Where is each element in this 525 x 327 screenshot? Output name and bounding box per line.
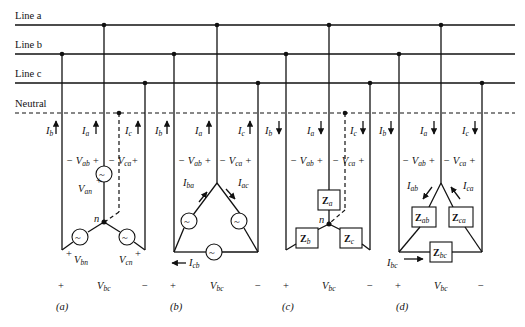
svg-text:Ic: Ic bbox=[461, 125, 470, 138]
voltage-label-vab: − Vab + bbox=[66, 155, 99, 168]
svg-text:Ia: Ia bbox=[306, 125, 315, 138]
panel-b-delta-source: ~ ~ ~ Ib Ia Ic − Vab + − Vca + Iba Iac I… bbox=[154, 23, 261, 313]
line-b-label: Line b bbox=[15, 39, 42, 50]
sine-icon: ~ bbox=[209, 247, 215, 258]
svg-text:n: n bbox=[319, 214, 324, 225]
svg-text:− Vca +: − Vca + bbox=[219, 155, 252, 168]
svg-text:− Vab +: − Vab + bbox=[178, 155, 211, 168]
panel-d-delta-load: Zab Zca Zbc Ib Ia Ic − Vab + − Vca + Iab… bbox=[378, 23, 484, 313]
svg-text:−: − bbox=[367, 280, 373, 291]
three-phase-circuit-diagram: Line a Line b Line c Neutral ~ ~ ~ bbox=[0, 0, 525, 327]
arrow-diagonal-icon bbox=[423, 187, 432, 199]
caption-c: (c) bbox=[282, 301, 294, 313]
plus-sign: + bbox=[135, 248, 141, 259]
voltage-label-van: Van bbox=[78, 183, 92, 196]
current-label-ib: Ib bbox=[45, 125, 54, 138]
line-c-label: Line c bbox=[15, 68, 42, 79]
plus-sign: + bbox=[96, 175, 102, 186]
svg-text:−: − bbox=[255, 280, 261, 291]
svg-text:Ib: Ib bbox=[154, 125, 163, 138]
current-label-ibc: Ibc bbox=[386, 257, 398, 270]
svg-text:− Vab +: − Vab + bbox=[290, 155, 323, 168]
current-label-ica: Ica bbox=[462, 180, 474, 193]
current-label-ic: Ic bbox=[124, 125, 133, 138]
svg-text:− Vca +: − Vca + bbox=[443, 155, 476, 168]
voltage-label-vbc: Vbc bbox=[97, 280, 111, 293]
current-label-iba: Iba bbox=[182, 177, 194, 190]
voltage-label-vbn: Vbn bbox=[74, 254, 88, 267]
plus-sign: + bbox=[66, 248, 72, 259]
current-label-ia: Ia bbox=[81, 125, 90, 138]
panel-c-y-load: Za n Zb Zc Ib Ia Ic − Vab + − Vca + + Vb… bbox=[264, 23, 373, 313]
current-label-iab: Iab bbox=[406, 180, 418, 193]
svg-text:Ic: Ic bbox=[237, 125, 246, 138]
sine-icon: ~ bbox=[184, 216, 190, 227]
voltage-label-vcn: Vcn bbox=[119, 254, 133, 267]
caption-b: (b) bbox=[170, 301, 183, 313]
sine-icon: ~ bbox=[122, 232, 128, 243]
svg-text:Ib: Ib bbox=[264, 125, 273, 138]
neutral-label: Neutral bbox=[15, 98, 47, 109]
panel-a-y-source: ~ ~ ~ Ib Ia Ic − Vab + − Vca+ Van + n + … bbox=[45, 23, 148, 313]
svg-text:Vbc: Vbc bbox=[210, 280, 224, 293]
svg-text:+: + bbox=[283, 280, 289, 291]
svg-text:Ic: Ic bbox=[349, 125, 358, 138]
current-label-icb: Icb bbox=[188, 257, 200, 270]
svg-text:Vbc: Vbc bbox=[322, 280, 336, 293]
svg-text:−: − bbox=[142, 280, 148, 291]
svg-text:Vbc: Vbc bbox=[434, 280, 448, 293]
caption-d: (d) bbox=[396, 301, 409, 313]
current-label-iac: Iac bbox=[237, 177, 249, 190]
node-label-n: n bbox=[94, 213, 99, 224]
svg-text:+: + bbox=[58, 280, 64, 291]
svg-text:− Vca +: − Vca + bbox=[332, 155, 365, 168]
svg-text:Ia: Ia bbox=[419, 125, 428, 138]
svg-text:− Vab +: − Vab + bbox=[402, 155, 435, 168]
sine-icon: ~ bbox=[234, 216, 240, 227]
svg-text:Ia: Ia bbox=[194, 125, 203, 138]
svg-text:Ib: Ib bbox=[378, 125, 387, 138]
svg-text:−: − bbox=[478, 280, 484, 291]
line-a-label: Line a bbox=[15, 10, 42, 21]
svg-text:+: + bbox=[170, 280, 176, 291]
arrow-diagonal-icon bbox=[451, 187, 460, 199]
voltage-label-vca: − Vca+ bbox=[108, 155, 138, 168]
svg-text:+: + bbox=[395, 280, 401, 291]
sine-icon: ~ bbox=[75, 232, 81, 243]
caption-a: (a) bbox=[56, 301, 69, 313]
